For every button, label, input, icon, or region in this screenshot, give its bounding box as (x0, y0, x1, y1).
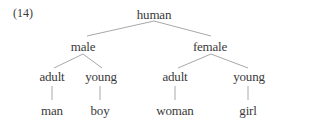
node-female: female (193, 40, 227, 54)
node-human: human (137, 8, 171, 22)
edge-male-young (83, 54, 102, 68)
node-female-adult: adult (163, 70, 188, 84)
node-male-adult: adult (40, 70, 65, 84)
node-boy: boy (91, 104, 110, 118)
edge-human-male (87, 21, 154, 36)
edge-male-adult (54, 54, 83, 68)
node-woman: woman (156, 104, 193, 118)
node-female-young: young (233, 70, 265, 84)
node-male-young: young (85, 70, 117, 84)
edge-female-young (211, 54, 248, 68)
edge-female-adult (178, 54, 211, 68)
edge-human-female (154, 21, 211, 36)
node-male: male (71, 40, 95, 54)
node-girl: girl (239, 104, 256, 118)
node-man: man (41, 104, 63, 118)
